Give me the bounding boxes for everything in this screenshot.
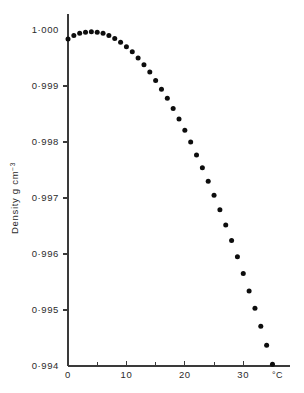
- data-point: [177, 117, 182, 122]
- data-point: [89, 29, 94, 34]
- y-tick-label: 0·998: [32, 136, 59, 147]
- data-point: [165, 96, 170, 101]
- data-point: [206, 179, 211, 184]
- data-point: [141, 62, 146, 67]
- data-point: [118, 40, 123, 45]
- y-axis-title-exponent: −3: [9, 162, 16, 171]
- data-point: [200, 165, 205, 170]
- y-tick-label: 0·995: [32, 304, 59, 315]
- x-tick-label: 0: [65, 369, 71, 380]
- data-point: [77, 31, 82, 36]
- data-point: [229, 238, 234, 243]
- data-point: [106, 33, 111, 38]
- data-point: [217, 207, 222, 212]
- data-point: [247, 288, 252, 293]
- data-point: [83, 30, 88, 35]
- y-tick-label: 1·000: [32, 24, 59, 35]
- data-point: [130, 49, 135, 54]
- data-point: [212, 193, 217, 198]
- data-point: [112, 36, 117, 41]
- y-axis-title-main: Density g cm: [9, 171, 20, 234]
- data-point: [194, 152, 199, 157]
- x-tick-label: 20: [179, 369, 191, 380]
- data-point: [171, 106, 176, 111]
- x-axis-unit: °C: [272, 370, 283, 380]
- y-tick-label: 0·996: [32, 248, 59, 259]
- density-temperature-chart: 1·0000·9990·9980·9970·9960·9950·994 0102…: [0, 0, 304, 393]
- data-point: [136, 56, 141, 61]
- data-point: [241, 271, 246, 276]
- data-point: [159, 87, 164, 92]
- y-tick-label: 0·999: [32, 80, 59, 91]
- data-point: [258, 324, 263, 329]
- y-axis-title-text: Density g cm−3: [9, 162, 21, 234]
- data-point: [66, 36, 71, 41]
- data-point: [264, 343, 269, 348]
- data-point: [153, 78, 158, 83]
- y-tick-label: 0·994: [32, 360, 59, 371]
- x-tick-label: 30: [237, 369, 249, 380]
- data-point: [182, 128, 187, 133]
- data-point: [252, 306, 257, 311]
- data-point: [270, 362, 275, 367]
- x-tick-label: 10: [121, 369, 133, 380]
- data-point: [95, 30, 100, 35]
- data-point: [235, 254, 240, 259]
- data-point: [71, 33, 76, 38]
- data-point: [147, 70, 152, 75]
- data-point: [124, 44, 129, 49]
- data-point: [188, 140, 193, 145]
- data-point: [223, 222, 228, 227]
- data-point: [101, 31, 106, 36]
- y-tick-label: 0·997: [32, 192, 59, 203]
- x-axis-unit-label: °C: [272, 370, 283, 380]
- y-axis-title: Density g cm−3: [9, 162, 21, 234]
